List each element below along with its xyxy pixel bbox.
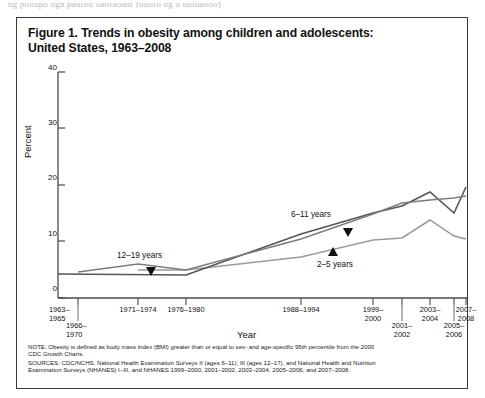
x-tick-label-1976-1980: 1976–1980: [161, 306, 211, 315]
plot-area: Percent 0 10 20 30 40: [17, 18, 469, 390]
series-label-12-19-years: 12–19 years: [117, 251, 162, 260]
x-tick-label-1999-2000: 1999– 2000: [353, 306, 393, 323]
figure-page: ng ponupo ogn pauroo oaoraoanr (uuoro og…: [0, 0, 485, 398]
x-tick-label-2005-2006: 2005– 2006: [434, 322, 474, 339]
note-line-2: CDC Growth Charts.: [28, 350, 460, 357]
y-tick-marks: [58, 72, 65, 298]
series-label-2-5-years: 2–5 years: [317, 260, 353, 269]
x-tick-label-2001-2002: 2001– 2002: [382, 322, 422, 339]
series-line-2-5-years: [138, 220, 466, 270]
sources-line-2: Examination Surveys (NHANES) I–III, and …: [28, 366, 460, 373]
sources-block: SOURCES: CDC/NCHS, National Health Exami…: [28, 359, 460, 374]
x-tick-label-1971-1974: 1971–1974: [113, 306, 163, 315]
pointer-triangle-6-11-years: [343, 228, 353, 237]
note-line-1: NOTE: Obesity is defined as body mass in…: [28, 343, 460, 350]
note-block: NOTE: Obesity is defined as body mass in…: [28, 343, 460, 358]
figure-container: Figure 1. Trends in obesity among childr…: [16, 17, 468, 389]
x-tick-label-1988-1994: 1988–1994: [276, 306, 326, 315]
x-axis-label: Year: [237, 329, 256, 340]
x-tick-label-2007-2008: 2007– 2008: [446, 306, 485, 323]
sources-line-1: SOURCES: CDC/NCHS, National Health Exami…: [28, 359, 460, 366]
figure-notes: NOTE: Obesity is defined as body mass in…: [28, 343, 460, 375]
x-tick-label-1966-1970: 1966– 1970: [66, 322, 116, 339]
series-label-6-11-years: 6–11 years: [291, 210, 331, 219]
cropped-text-above-figure: ng ponupo ogn pauroo oaoraoanr (uuoro og…: [8, 0, 478, 11]
x-tick-marks: [78, 298, 466, 305]
